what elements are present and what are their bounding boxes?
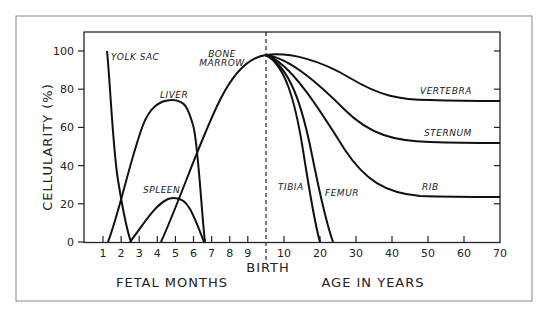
curve-rib [266, 55, 500, 197]
y-tick-80: 80 [60, 83, 74, 96]
x-axis-labels-months: 1 2 3 4 5 6 7 8 9 [100, 247, 252, 260]
label-yolk-sac: YOLK SAC [111, 52, 160, 62]
x-tick-a10: 10 [277, 247, 291, 260]
label-bone-marrow-line2: MARROW [199, 58, 245, 68]
x-tick-a70: 70 [493, 247, 507, 260]
x-tick-m6: 6 [190, 247, 197, 260]
label-vertebra: VERTEBRA [420, 86, 472, 96]
curves [107, 51, 500, 242]
x-tick-m3: 3 [136, 247, 143, 260]
y-tick-0: 0 [67, 236, 74, 249]
curve-yolk-sac [107, 51, 131, 242]
y-axis-labels: 0 20 40 60 80 100 [53, 45, 74, 249]
label-spleen: SPLEEN [143, 185, 180, 195]
y-axis-title: CELLULARITY (%) [40, 83, 55, 210]
x-tick-a60: 60 [457, 247, 471, 260]
curve-spleen [130, 198, 204, 242]
x-tick-m2: 2 [118, 247, 125, 260]
x-tick-m4: 4 [154, 247, 161, 260]
birth-label: BIRTH [246, 260, 290, 275]
label-liver: LIVER [160, 90, 188, 100]
y-tick-60: 60 [60, 121, 74, 134]
label-sternum: STERNUM [424, 128, 472, 138]
x-tick-m7: 7 [208, 247, 215, 260]
x-axis-ticks [103, 236, 464, 242]
y-tick-20: 20 [60, 198, 74, 211]
label-tibia: TIBIA [278, 182, 304, 192]
x-axis-title-years: AGE IN YEARS [321, 275, 424, 290]
x-axis-labels-years: 10 20 30 40 50 60 70 [277, 247, 507, 260]
label-femur: FEMUR [325, 188, 359, 198]
curve-tibia [266, 55, 320, 242]
y-tick-40: 40 [60, 160, 74, 173]
x-tick-a50: 50 [421, 247, 435, 260]
x-tick-m5: 5 [172, 247, 179, 260]
x-axis-title-fetal: FETAL MONTHS [116, 275, 228, 290]
y-tick-100: 100 [53, 45, 74, 58]
x-tick-m1: 1 [100, 247, 107, 260]
curve-labels: YOLK SAC LIVER SPLEEN BONE MARROW TIBIA … [111, 49, 472, 198]
x-tick-a20: 20 [313, 247, 327, 260]
hematopoiesis-chart: 0 20 40 60 80 100 CELLULARITY (%) 1 2 3 … [0, 0, 544, 319]
x-tick-m8: 8 [226, 247, 233, 260]
curve-bone-marrow [161, 55, 266, 242]
x-tick-a30: 30 [349, 247, 363, 260]
x-tick-m9: 9 [244, 247, 251, 260]
label-rib: RIB [422, 182, 439, 192]
x-tick-a40: 40 [385, 247, 399, 260]
